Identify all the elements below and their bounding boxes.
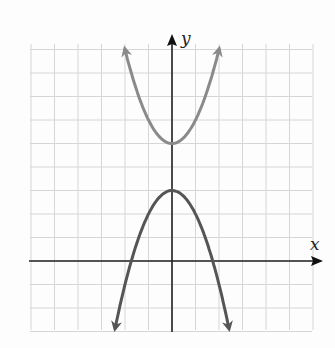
x-axis-label: x — [310, 234, 320, 254]
y-axis-label: y — [180, 28, 191, 48]
graph-figure: y x — [0, 0, 335, 348]
axes — [29, 34, 323, 332]
coordinate-plane: y x — [0, 0, 335, 348]
